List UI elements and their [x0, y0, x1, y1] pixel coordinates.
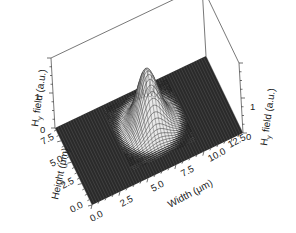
surface-plot: 0.0 2.5 5.0 7.5 10.0 12.5 0.0 2.5 5.0 7.… [0, 0, 296, 233]
x-tick [119, 192, 120, 196]
z-tick-label: 0 [40, 124, 45, 135]
x-tick-label: 7.5 [179, 163, 196, 179]
y-tick [57, 135, 59, 136]
x-tick [203, 152, 204, 156]
x-axis-label: Width (μm) [166, 177, 215, 210]
back-right-edge [202, 0, 206, 56]
y-tick [82, 189, 84, 190]
x-tick-label: 2.5 [118, 193, 135, 209]
x-tick [91, 205, 92, 209]
y-tick-label: 0.0 [68, 199, 85, 215]
y-tick [75, 173, 77, 174]
y-tick [85, 194, 87, 195]
y-tick [88, 205, 92, 206]
y-tick [57, 141, 61, 142]
z-label-rest: field (a.u.) [260, 87, 277, 135]
x-tick-label: 0.0 [88, 208, 105, 224]
x-tick [147, 178, 148, 182]
y-tick [77, 178, 79, 179]
z-tick-label: 1 [250, 101, 255, 112]
y-tick [62, 146, 64, 147]
z-axis-left-label: Hy field (a.u.) [29, 68, 51, 127]
x-tick [175, 165, 176, 169]
z-label-rest: field (a.u.) [31, 68, 48, 116]
x-tick-label: 5.0 [149, 178, 166, 194]
z-axis-right-ticklabels: 0 1 [246, 101, 255, 142]
y-tick [78, 184, 82, 185]
y-axis-label: Height (μm) [49, 147, 71, 201]
y-tick [87, 200, 89, 201]
z-tick-label: 0 [246, 131, 251, 142]
y-tick [67, 162, 71, 163]
back-top-edge [51, 0, 202, 58]
right-top-edge [202, 0, 239, 63]
z-axis-right-label: Hy field (a.u.) [258, 87, 280, 146]
y-tick [54, 130, 56, 131]
y-tick [72, 168, 74, 169]
